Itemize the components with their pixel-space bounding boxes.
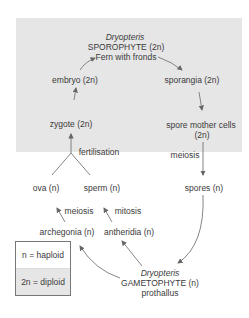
arrow-antheridia-to-sperm	[104, 208, 112, 222]
sporophyte-genus: Dryopteris	[95, 32, 155, 42]
arrow-sporangia-to-smc	[199, 92, 202, 110]
legend-haploid: n = haploid	[16, 242, 70, 268]
gametophyte-name: GAMETOPHYTE (n)	[118, 278, 202, 288]
legend: n = haploid 2n = diploid	[15, 241, 71, 296]
node-embryo: embryo (2n)	[50, 75, 100, 85]
arrow-gametophyte-to-archegonia	[80, 246, 120, 278]
node-sporangia: sporangia (2n)	[160, 75, 224, 85]
node-antheridia: antheridia (n)	[103, 227, 155, 237]
gametophyte-desc: prothallus	[130, 288, 190, 298]
sporophyte-desc: Fern with fronds	[85, 52, 167, 62]
gametophyte-genus: Dryopteris	[130, 268, 190, 278]
node-zygote: zygote (2n)	[46, 119, 96, 129]
node-sperm: sperm (n)	[82, 183, 122, 193]
sporophyte-name: SPOROPHYTE (2n)	[85, 42, 167, 52]
node-ova: ova (n)	[30, 183, 62, 193]
process-meiosis-spores: meiosis	[170, 150, 200, 160]
legend-diploid: 2n = diploid	[16, 268, 70, 295]
arrow-zygote-to-embryo	[74, 88, 76, 100]
node-smc-line1: spore mother cells	[166, 120, 236, 130]
node-spores: spores (n)	[184, 183, 224, 193]
node-archegonia: archegonia (n)	[38, 227, 96, 237]
node-smc-line2: (2n)	[190, 130, 214, 140]
process-fertilisation: fertilisation	[78, 147, 120, 157]
arrow-spores-to-gametophyte	[178, 195, 203, 263]
process-mitosis: mitosis	[113, 206, 143, 216]
arrow-gametophyte-to-antheridia	[122, 241, 142, 266]
process-meiosis-ova: meiosis	[64, 206, 94, 216]
